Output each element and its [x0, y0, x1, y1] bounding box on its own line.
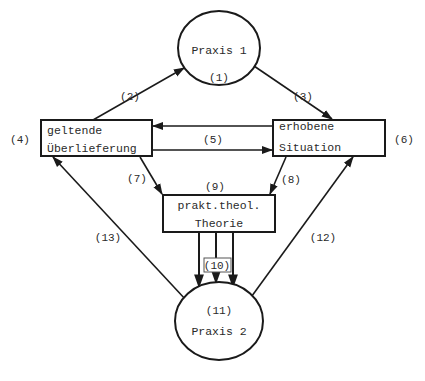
theorie-line-1: prakt.theol.: [178, 199, 261, 212]
situation-number: (6): [394, 134, 414, 146]
edge-7-label: (7): [127, 173, 147, 185]
ueberlieferung-line-2: Überlieferung: [47, 142, 137, 155]
situation-line-2: Situation: [279, 141, 341, 154]
node-praxis-1: Praxis 1 (1): [178, 11, 260, 85]
edge-2-label: (2): [120, 91, 140, 103]
ueberlieferung-line-1: geltende: [47, 124, 102, 137]
praxis-2-number: (11): [206, 305, 232, 317]
praxis-2-ellipse: [175, 282, 263, 360]
node-theorie: prakt.theol. Theorie (9): [163, 181, 275, 232]
praxis-1-number: (1): [209, 72, 229, 84]
edge-13-label: (13): [95, 232, 121, 244]
praxis-theory-diagram: Praxis 1 (1) geltende Überlieferung (4) …: [0, 0, 425, 381]
theorie-line-2: Theorie: [195, 217, 243, 230]
node-ueberlieferung: geltende Überlieferung (4): [10, 120, 152, 156]
node-situation: erhobene Situation (6): [273, 120, 414, 156]
ueberlieferung-number: (4): [10, 134, 30, 146]
situation-line-1: erhobene: [279, 120, 334, 133]
edge-12-label: (12): [310, 232, 336, 244]
edge-5-label: (5): [203, 134, 223, 146]
edge-10-label: (10): [204, 260, 230, 272]
praxis-1-label: Praxis 1: [191, 44, 246, 57]
edge-3-label: (3): [293, 91, 313, 103]
node-praxis-2: (11) Praxis 2: [175, 282, 263, 360]
praxis-2-label: Praxis 2: [191, 325, 246, 338]
edge-8-label: (8): [281, 174, 301, 186]
theorie-number: (9): [205, 181, 225, 193]
